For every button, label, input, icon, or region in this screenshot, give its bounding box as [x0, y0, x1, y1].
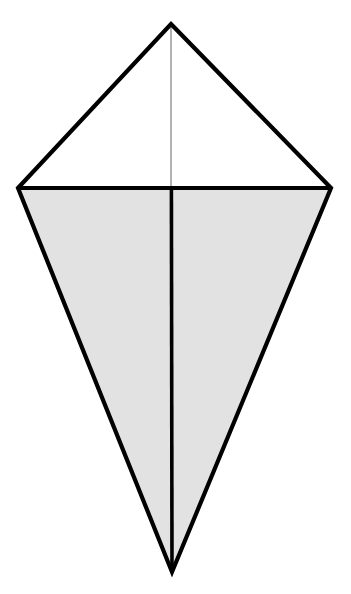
kite-diagram-svg [0, 0, 351, 594]
vertical-axis-lower-line [171, 187, 172, 572]
figure-canvas [0, 0, 351, 594]
